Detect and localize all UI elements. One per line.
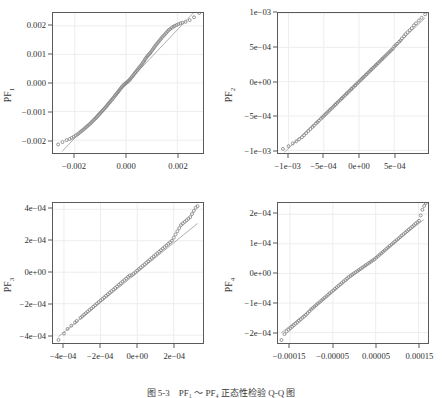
xtick-mark <box>323 154 324 158</box>
ytick-mark <box>273 213 277 214</box>
xtick-mark <box>332 344 333 348</box>
ytick-mark <box>48 272 52 273</box>
ytick-mark <box>48 54 52 55</box>
panel-pf3-canvas <box>53 203 203 343</box>
panel-pf4-canvas <box>278 203 428 343</box>
ytick-mark <box>48 336 52 337</box>
panel-pf2-plot-area: −1e−03−5e−040e+005e−041e−03−1e−03−5e−040… <box>277 12 429 154</box>
xtick-mark <box>63 344 64 348</box>
ytick-mark <box>273 303 277 304</box>
panel-pf3-plot-box <box>52 202 204 344</box>
xtick-mark <box>174 344 175 348</box>
panel-pf2-canvas <box>278 13 428 153</box>
xtick-mark <box>100 344 101 348</box>
panel-pf1-plot-area: −0.002−0.0010.0000.0010.002−0.0020.0000.… <box>52 12 204 154</box>
panel-pf1: PF1 −0.002−0.0010.0000.0010.002−0.0020.0… <box>0 0 221 190</box>
ytick-mark <box>273 116 277 117</box>
xtick-mark <box>376 344 377 348</box>
ytick-mark <box>273 333 277 334</box>
panel-pf2-ylabel: PF2 <box>224 88 237 103</box>
ytick-mark <box>48 240 52 241</box>
ytick-mark <box>273 46 277 47</box>
xtick-mark <box>287 154 288 158</box>
panel-pf4-plot-box <box>277 202 429 344</box>
xtick-mark <box>359 154 360 158</box>
panel-pf1-canvas <box>53 13 203 153</box>
ytick-mark <box>273 81 277 82</box>
panel-pf4-plot-area: −2e−04−1e−040e+001e−042e−04−0.00015−0.00… <box>277 202 429 344</box>
xtick-mark <box>289 344 290 348</box>
xtick-mark <box>394 154 395 158</box>
panel-pf4: PF4 −2e−04−1e−040e+001e−042e−04−0.00015−… <box>221 190 442 380</box>
xtick-mark <box>137 344 138 348</box>
ytick-mark <box>273 151 277 152</box>
ytick-mark <box>48 304 52 305</box>
panel-pf2-plot-box <box>277 12 429 154</box>
ytick-mark <box>48 111 52 112</box>
ytick-mark <box>273 273 277 274</box>
panel-grid: PF1 −0.002−0.0010.0000.0010.002−0.0020.0… <box>0 0 442 380</box>
panel-pf3-ylabel: PF3 <box>3 278 16 293</box>
xtick-mark <box>126 154 127 158</box>
ytick-mark <box>48 25 52 26</box>
ytick-mark <box>48 140 52 141</box>
xtick-mark <box>178 154 179 158</box>
panel-pf4-ylabel: PF4 <box>224 278 237 293</box>
qq-plot-figure: PF1 −0.002−0.0010.0000.0010.002−0.0020.0… <box>0 0 442 398</box>
ytick-mark <box>48 208 52 209</box>
panel-pf1-plot-box <box>52 12 204 154</box>
panel-pf3: PF3 −4e−04−2e−040e+002e−044e−04−4e−04−2e… <box>0 190 221 380</box>
panel-pf2: PF2 −1e−03−5e−040e+005e−041e−03−1e−03−5e… <box>221 0 442 190</box>
panel-pf1-ylabel: PF1 <box>3 88 16 103</box>
xtick-mark <box>419 344 420 348</box>
figure-caption: 图 5-3 PF₁ ～ PF₄ 正态性检验 Q-Q 图 <box>0 386 442 398</box>
ytick-mark <box>273 243 277 244</box>
ytick-mark <box>48 83 52 84</box>
xtick-mark <box>74 154 75 158</box>
panel-pf3-plot-area: −4e−04−2e−040e+002e−044e−04−4e−04−2e−040… <box>52 202 204 344</box>
ytick-mark <box>273 12 277 13</box>
